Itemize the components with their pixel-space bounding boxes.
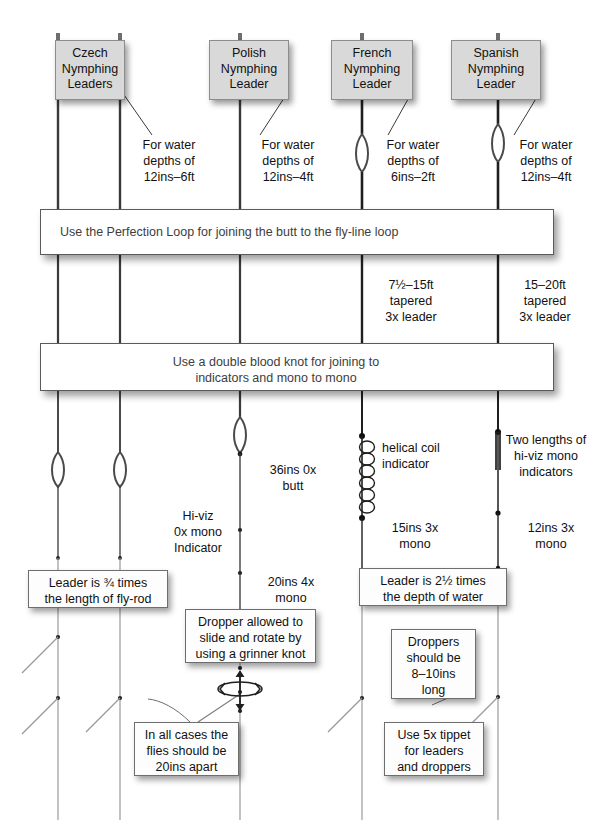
czech-fly-lead-a2 xyxy=(22,698,58,734)
note-polish-depth: For water depths of 12ins–4ft xyxy=(247,137,329,185)
note-spanish-indicators: Two lengths of hi-viz mono indicators xyxy=(492,432,600,480)
czech-fly-lead-a1 xyxy=(22,637,58,673)
header-czech[interactable]: Czech Nymphing Leaders xyxy=(55,40,125,100)
polish-fly-lead xyxy=(198,694,240,722)
note-french-leader-spec: 7½–15ft tapered 3x leader xyxy=(368,277,454,325)
czech-fly-lead-b1 xyxy=(86,698,120,732)
callout-leader-depth-water-text: Leader is 2½ times the depth of water xyxy=(380,574,486,604)
header-french-label: French Nymphing Leader xyxy=(344,46,400,91)
callout-dropper-grinner[interactable]: Dropper allowed to slide and rotate by u… xyxy=(185,609,316,663)
french-fly-lead xyxy=(328,698,362,732)
french-loop-icon xyxy=(356,134,368,172)
callout-leader-length-rod-text: Leader is ¾ times the length of fly-rod xyxy=(44,576,151,606)
bar-perfection-loop[interactable]: Use the Perfection Loop for joining the … xyxy=(40,209,554,255)
czech-pointer xyxy=(122,92,152,135)
header-spanish-label: Spanish Nymphing Leader xyxy=(468,46,524,91)
bar-blood-knot[interactable]: Use a double blood knot for joining to i… xyxy=(40,343,554,391)
note-french-depth: For water depths of 6ins–2ft xyxy=(372,137,454,185)
note-spanish-mono: 12ins 3x mono xyxy=(508,520,594,552)
header-spanish[interactable]: Spanish Nymphing Leader xyxy=(451,40,541,100)
callout-dropper-grinner-text: Dropper allowed to slide and rotate by u… xyxy=(196,615,306,661)
note-czech-depth: For water depths of 12ins–6ft xyxy=(128,137,210,185)
callout-tippet-spec[interactable]: Use 5x tippet for leaders and droppers xyxy=(384,722,484,776)
czech-leader-lines xyxy=(22,33,126,820)
note-polish-butt: 36ins 0x butt xyxy=(250,462,336,494)
french-leader-lines xyxy=(328,33,375,820)
callout-leader-depth-water[interactable]: Leader is 2½ times the depth of water xyxy=(359,568,507,606)
bar-blood-knot-text: Use a double blood knot for joining to i… xyxy=(151,354,401,386)
callout-dropper-length-text: Droppers should be 8–10ins long xyxy=(406,635,460,697)
leader-lines-layer xyxy=(0,0,609,823)
spanish-leader-lines xyxy=(462,33,504,820)
callout-leader-length-rod[interactable]: Leader is ¾ times the length of fly-rod xyxy=(28,570,168,608)
callout-flies-spacing[interactable]: In all cases the flies should be 20ins a… xyxy=(134,722,239,776)
bar-perfection-loop-text: Use the Perfection Loop for joining the … xyxy=(60,224,398,240)
callout-tippet-spec-text: Use 5x tippet for leaders and droppers xyxy=(397,728,471,774)
flies-spacing-pointer xyxy=(148,699,190,722)
callout-dropper-length[interactable]: Droppers should be 8–10ins long xyxy=(391,629,476,699)
note-spanish-leader-spec: 15–20ft tapered 3x leader xyxy=(500,277,590,325)
note-polish-tippet: 20ins 4x mono xyxy=(248,574,334,606)
note-french-mono: 15ins 3x mono xyxy=(372,520,458,552)
note-french-helical-coil: helical coil indicator xyxy=(382,440,474,472)
czech-loop-b-icon xyxy=(114,452,126,487)
polish-dropper-knot-1 xyxy=(238,666,242,670)
header-french[interactable]: French Nymphing Leader xyxy=(331,40,413,100)
diagram-canvas: Czech Nymphing Leaders Polish Nymphing L… xyxy=(0,0,609,823)
note-polish-hiviz-indicator: Hi-viz 0x mono Indicator xyxy=(155,508,241,556)
note-spanish-depth: For water depths of 12ins–4ft xyxy=(503,137,589,185)
czech-loop-a-icon xyxy=(52,452,64,487)
callout-flies-spacing-text: In all cases the flies should be 20ins a… xyxy=(145,728,228,774)
header-polish[interactable]: Polish Nymphing Leader xyxy=(209,40,289,100)
header-polish-label: Polish Nymphing Leader xyxy=(221,46,277,91)
header-czech-label: Czech Nymphing Leaders xyxy=(62,46,118,91)
polish-loop-icon xyxy=(234,417,246,453)
